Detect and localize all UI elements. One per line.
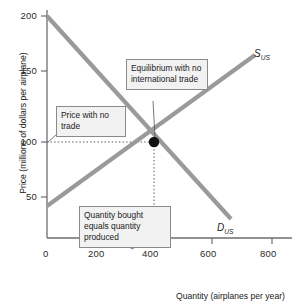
x-tick-label-600: 600 xyxy=(200,248,216,259)
equilibrium-point-marker xyxy=(149,137,159,147)
demand-curve-label-subscript: US xyxy=(224,228,233,235)
y-tick-label-200: 200 xyxy=(8,10,37,21)
y-axis-title: Price (millions of dollars per airplane) xyxy=(18,38,28,208)
supply-curve-label-subscript: US xyxy=(261,54,270,61)
quantity-callout: Quantity bought equals quantity produced xyxy=(79,206,171,248)
x-tick-label-200: 200 xyxy=(88,248,104,259)
chart-canvas xyxy=(0,0,298,306)
supply-curve-label: SUS xyxy=(254,48,270,61)
equilibrium-callout: Equilibrium with no international trade xyxy=(126,59,208,90)
supply-demand-chart: 200 150 100 50 0 200 400 600 800 Price (… xyxy=(0,0,298,306)
x-tick-label-0: 0 xyxy=(43,248,48,259)
x-tick-label-400: 400 xyxy=(142,248,158,259)
demand-curve-label: DUS xyxy=(217,222,233,235)
supply-curve-label-letter: S xyxy=(254,48,261,59)
price-callout: Price with no trade xyxy=(56,106,126,137)
y-tick-marks xyxy=(41,16,47,197)
x-tick-label-800: 800 xyxy=(260,248,276,259)
x-axis-title: Quantity (airplanes per year) xyxy=(176,291,285,301)
